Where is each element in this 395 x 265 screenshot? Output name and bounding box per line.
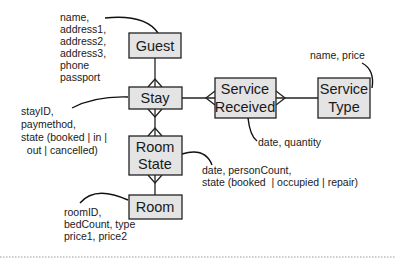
guest-attr-line: name,: [60, 11, 89, 23]
er-diagram: Guest Stay Room State Room Service Recei…: [0, 0, 395, 265]
guest-attr-line: address2,: [60, 35, 106, 47]
room-state-attr-line: state (booked | occupied | repair): [202, 176, 358, 188]
entity-room-state-label-2: State: [138, 156, 172, 172]
guest-attr-line: passport: [60, 71, 100, 83]
guest-attr-line: address1,: [60, 23, 106, 35]
attributes-service-received: date, quantity: [258, 136, 322, 148]
room-attr-line: bedCount, type: [64, 218, 135, 230]
stay-attr-line: out | cancelled): [21, 144, 98, 156]
entity-service-type-label-1: Service: [320, 81, 368, 97]
attributes-service-type: name, price: [310, 49, 365, 61]
entity-guest[interactable]: Guest: [129, 33, 181, 58]
guest-attr-line: address3,: [60, 47, 106, 59]
entity-stay-label: Stay: [140, 90, 170, 106]
guest-attr-leader: [105, 17, 158, 33]
entity-service-type-label-2: Type: [328, 99, 359, 115]
room-attr-line: roomID,: [64, 206, 101, 218]
attributes-room-state: date, personCount, state (booked | occup…: [202, 164, 358, 188]
attributes-room: roomID, bedCount, type price1, price2: [64, 206, 135, 242]
entity-guest-label: Guest: [136, 38, 175, 54]
room-attr-leader: [80, 193, 128, 203]
guest-attr-line: phone: [60, 59, 89, 71]
servicereceived-attr-leader: [248, 118, 257, 141]
room-attr-line: price1, price2: [64, 230, 127, 242]
stay-attr-line: paymethod,: [21, 118, 76, 130]
entity-room-state-label-1: Room: [136, 139, 175, 155]
stay-attr-line: stayID,: [21, 105, 54, 117]
entity-room-label: Room: [136, 199, 175, 215]
attributes-stay: stayID, paymethod, state (booked | in | …: [21, 105, 107, 156]
entity-stay[interactable]: Stay: [129, 87, 182, 109]
stay-attr-leader: [72, 97, 128, 108]
entity-room-state[interactable]: Room State: [129, 136, 182, 175]
entity-service-received[interactable]: Service Received: [215, 78, 276, 118]
service-type-attr-line: name, price: [310, 49, 365, 61]
service-received-attr-line: date, quantity: [258, 136, 322, 148]
room-state-attr-line: date, personCount,: [202, 164, 291, 176]
entity-service-type[interactable]: Service Type: [318, 78, 370, 118]
entity-service-received-label-1: Service: [221, 81, 269, 97]
entity-service-received-label-2: Received: [215, 99, 275, 115]
entity-room[interactable]: Room: [129, 195, 182, 219]
attributes-guest: name, address1, address2, address3, phon…: [60, 11, 106, 83]
stay-attr-line: state (booked | in |: [21, 131, 107, 143]
